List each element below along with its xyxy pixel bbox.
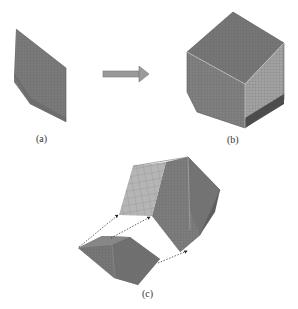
panel-b-solid	[187, 12, 284, 128]
mapping-arrow-2	[111, 217, 150, 238]
mapping-arrow-3	[158, 251, 187, 263]
panel-c-label: (c)	[142, 288, 153, 299]
panel-a-label: (a)	[36, 133, 47, 144]
panel-c-exploded	[78, 157, 220, 285]
figure-canvas	[0, 0, 298, 309]
panel-a-plate	[14, 29, 66, 122]
transform-arrow-icon	[103, 66, 149, 82]
panel-b-label: (b)	[227, 134, 239, 145]
